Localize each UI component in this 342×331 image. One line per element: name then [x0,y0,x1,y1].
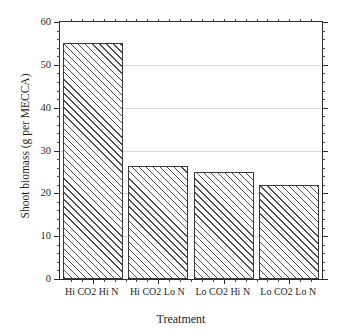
y-tick-minor [57,56,60,57]
y-tick-minor [57,176,60,177]
y-tick-minor [57,73,60,74]
bar-hi-co2-lo-n[interactable] [128,166,188,280]
x-tick-minor [191,279,192,282]
bar-hi-co2-hi-n[interactable] [63,43,123,279]
x-tick-minor [71,279,72,282]
y-tick-major-30 [54,151,60,152]
x-tick-major [158,279,159,284]
y-tick-minor-right [322,99,325,100]
x-tick-minor [115,279,116,282]
x-tick-minor-top [104,19,105,22]
x-tick-minor-top [246,19,247,22]
y-tick-minor-right [322,185,325,186]
y-tick-minor-right [322,270,325,271]
y-tick-minor-right [322,219,325,220]
y-tick-label-30: 30 [41,145,52,156]
y-tick-minor-right [322,202,325,203]
y-tick-minor-right [322,39,325,40]
x-tick-minor-top [300,19,301,22]
y-tick-minor-right [322,48,325,49]
y-tick-minor-right [322,73,325,74]
y-tick-minor [57,133,60,134]
x-tick-minor-top [213,19,214,22]
y-tick-minor [57,48,60,49]
y-tick-major-right-40 [322,108,328,109]
x-tick-minor [136,279,137,282]
y-tick-minor [57,245,60,246]
y-tick-label-0: 0 [46,274,51,285]
y-tick-minor [57,253,60,254]
y-tick-minor-right [322,133,325,134]
y-tick-label-40: 40 [41,102,52,113]
y-tick-major-right-0 [322,279,328,280]
x-tick-minor [267,279,268,282]
x-tick-label-2: Lo CO2 Hi N [190,286,256,297]
y-tick-major-right-50 [322,65,328,66]
y-tick-minor-right [322,253,325,254]
x-tick-label-0: Hi CO2 Hi N [59,286,125,297]
y-tick-minor [57,270,60,271]
y-tick-major-40 [54,108,60,109]
x-tick-minor [213,279,214,282]
clipped-caption-text [60,0,300,4]
y-tick-minor [57,159,60,160]
x-tick-minor-top [257,19,258,22]
y-tick-minor [57,202,60,203]
bar-lo-co2-hi-n[interactable] [194,172,254,279]
x-tick-minor-top [71,19,72,22]
x-tick-minor [202,279,203,282]
x-tick-minor [169,279,170,282]
y-tick-minor-right [322,228,325,229]
x-tick-minor-top [180,19,181,22]
x-tick-minor [235,279,236,282]
y-axis-title: Shoot biomass (g per MECCA) [19,26,31,266]
plot-area: 0102030405060 [59,21,323,280]
x-tick-minor-top [147,19,148,22]
y-tick-minor [57,39,60,40]
y-tick-minor [57,262,60,263]
y-tick-minor [57,116,60,117]
x-tick-label-1: Hi CO2 Lo N [125,286,191,297]
x-tick-minor-top [311,19,312,22]
y-tick-minor-right [322,142,325,143]
y-tick-minor-right [322,245,325,246]
x-tick-minor [278,279,279,282]
x-tick-minor-top [136,19,137,22]
y-tick-minor-right [322,82,325,83]
y-tick-major-right-10 [322,236,328,237]
y-tick-major-right-60 [322,22,328,23]
y-tick-minor [57,99,60,100]
x-tick-minor [180,279,181,282]
bar-lo-co2-lo-n[interactable] [259,185,319,279]
y-tick-label-60: 60 [41,17,52,28]
x-tick-minor [257,279,258,282]
x-tick-minor-top [82,19,83,22]
y-tick-minor-right [322,210,325,211]
x-tick-minor [82,279,83,282]
x-tick-minor [104,279,105,282]
bar-chart-figure: Shoot biomass (g per MECCA) 010203040506… [0,0,342,331]
y-tick-major-0 [54,279,60,280]
y-tick-minor-right [322,116,325,117]
x-tick-minor-top [267,19,268,22]
y-tick-minor [57,82,60,83]
y-tick-label-20: 20 [41,188,52,199]
y-tick-major-50 [54,65,60,66]
y-tick-minor-right [322,176,325,177]
x-tick-minor-top [169,19,170,22]
x-tick-major [289,279,290,284]
y-tick-minor [57,142,60,143]
x-tick-minor-top [235,19,236,22]
x-tick-minor [246,279,247,282]
x-tick-minor-top [115,19,116,22]
y-tick-minor-right [322,125,325,126]
x-tick-minor [147,279,148,282]
y-tick-minor [57,31,60,32]
x-tick-minor-top [158,19,159,22]
y-tick-label-50: 50 [41,60,52,71]
y-tick-minor-right [322,31,325,32]
y-tick-minor-right [322,262,325,263]
y-tick-minor [57,185,60,186]
y-tick-major-right-20 [322,193,328,194]
y-tick-minor-right [322,91,325,92]
